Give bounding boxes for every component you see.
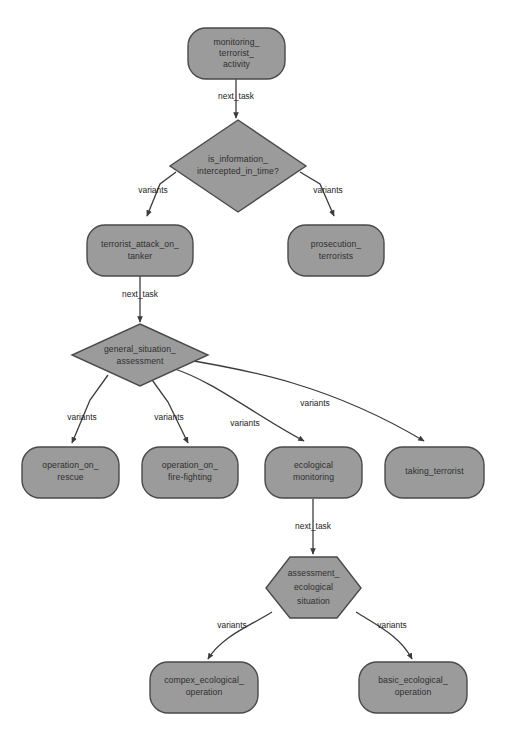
node-label-line1: monitoring_ bbox=[213, 37, 259, 47]
edge-label-variants-3: variants bbox=[67, 412, 96, 422]
node-label-line2: intercepted_in_time? bbox=[197, 166, 279, 176]
edge-decision2-to-firefighting bbox=[150, 377, 188, 443]
node-label-line1: ecological bbox=[294, 460, 333, 470]
node-label-line1: general_situation_ bbox=[104, 344, 176, 354]
node-terrorist-attack-on-tanker[interactable]: terrorist_attack_on_ tanker bbox=[87, 225, 193, 276]
edge-label-next-task-3: next_task bbox=[295, 521, 332, 531]
node-label-line2: rescue bbox=[57, 472, 84, 482]
node-ecological-monitoring[interactable]: ecological monitoring bbox=[265, 447, 362, 498]
edge-label-variants-4: variants bbox=[154, 412, 183, 422]
edge-label-variants-1: variants bbox=[138, 185, 167, 195]
node-general-situation-assessment[interactable]: general_situation_ assessment bbox=[72, 324, 208, 386]
node-label-line2: fire-fighting bbox=[168, 472, 212, 482]
node-basic-ecological-operation[interactable]: basic_ecological_ operation bbox=[359, 662, 467, 713]
node-is-information-intercepted-in-time[interactable]: is_information_ intercepted_in_time? bbox=[170, 120, 306, 212]
node-compex-ecological-operation[interactable]: compex_ecological_ operation bbox=[150, 662, 258, 713]
node-label-line1: is_information_ bbox=[208, 154, 268, 164]
node-label-line3: activity bbox=[223, 59, 251, 69]
node-assessment-ecological-situation[interactable]: assessment_ ecological situation bbox=[266, 557, 361, 618]
node-label-line1: compex_ecological_ bbox=[164, 675, 244, 685]
node-label-line1: operation_on_ bbox=[42, 460, 98, 470]
flowchart-canvas: next_task variants variants next_task va… bbox=[0, 0, 506, 743]
node-label-line1: terrorist_attack_on_ bbox=[101, 239, 179, 249]
node-operation-on-rescue[interactable]: operation_on_ rescue bbox=[22, 447, 119, 498]
node-monitoring-terrorist-activity[interactable]: monitoring_ terrorist_ activity bbox=[188, 28, 285, 79]
edge-label-variants-7: variants bbox=[217, 620, 246, 630]
edge-label-next-task-2: next_task bbox=[122, 289, 159, 299]
node-operation-on-fire-fighting[interactable]: operation_on_ fire-fighting bbox=[142, 447, 238, 498]
node-shape-diamond bbox=[72, 324, 208, 386]
node-label-line1: basic_ecological_ bbox=[378, 675, 448, 685]
node-label-line1: assessment_ bbox=[288, 568, 340, 578]
node-label-line1: taking_terrorist bbox=[405, 466, 464, 476]
node-label-line2: terrorist_ bbox=[219, 48, 254, 58]
node-taking-terrorist[interactable]: taking_terrorist bbox=[385, 447, 484, 498]
flowchart-diagram: next_task variants variants next_task va… bbox=[0, 0, 506, 743]
edge-assessment-to-compex-operation bbox=[208, 612, 272, 659]
edge-decision2-to-ecological-monitoring bbox=[172, 368, 304, 441]
node-label-line2: ecological bbox=[294, 582, 333, 592]
edge-decision2-to-rescue bbox=[72, 375, 108, 443]
edge-label-variants-8: variants bbox=[377, 620, 406, 630]
node-label-line3: situation bbox=[297, 596, 330, 606]
node-prosecution-terrorists[interactable]: prosecution_ terrorists bbox=[288, 225, 384, 276]
node-label-line2: tanker bbox=[128, 251, 153, 261]
node-label-line2: monitoring bbox=[293, 472, 334, 482]
node-label-line1: prosecution_ bbox=[311, 239, 362, 249]
edge-label-variants-5: variants bbox=[230, 418, 259, 428]
edge-label-next-task-1: next_task bbox=[218, 91, 255, 101]
node-label-line2: terrorists bbox=[319, 251, 353, 261]
node-label-line1: operation_on_ bbox=[162, 460, 218, 470]
node-label-line2: operation bbox=[186, 687, 223, 697]
node-label-line2: operation bbox=[395, 687, 432, 697]
edge-label-variants-2: variants bbox=[313, 185, 342, 195]
edge-assessment-to-basic-operation bbox=[356, 612, 412, 659]
edge-label-variants-6: variants bbox=[300, 398, 329, 408]
node-label-line2: assessment bbox=[117, 356, 164, 366]
